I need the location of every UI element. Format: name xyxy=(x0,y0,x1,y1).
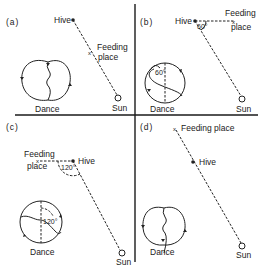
feeding-label-1: Feeding xyxy=(225,8,256,18)
hive-label: Hive xyxy=(78,156,95,166)
dance-angle-label: 60° xyxy=(155,69,166,76)
feeding-place-marker-icon: x xyxy=(36,158,39,164)
feeding-label-1: Feeding xyxy=(24,149,55,159)
panel-label: (a) xyxy=(6,17,19,27)
hive-label: Hive xyxy=(54,15,71,25)
angle-label: 120° xyxy=(61,164,76,171)
sun-icon xyxy=(239,96,245,102)
sun-icon xyxy=(119,250,125,256)
sun-icon xyxy=(239,243,245,249)
dance-label: Dance xyxy=(30,247,55,257)
dance-label: Dance xyxy=(150,247,175,257)
sun-label: Sun xyxy=(112,103,127,113)
sun-label: Sun xyxy=(236,104,251,114)
hive-label: Hive xyxy=(199,157,216,167)
feeding-sun-line xyxy=(176,130,241,243)
panel-label: (b) xyxy=(140,17,153,27)
feeding-place-marker-icon: x xyxy=(173,126,176,132)
panel-label: (d) xyxy=(140,122,153,132)
feeding-label-2: place xyxy=(231,22,252,32)
hive-dot-icon xyxy=(191,160,195,164)
panel-label: (c) xyxy=(6,122,19,132)
feeding-label: Feeding place xyxy=(181,123,235,133)
hive-sun-line xyxy=(195,21,241,96)
feeding-label-1: Feeding xyxy=(97,42,128,52)
panel-b: (b) Hive x Feeding place 60° Sun 60° Dan… xyxy=(140,8,256,114)
sun-label: Sun xyxy=(116,257,131,267)
bee-dance-diagram: (a) Hive x Feeding place Sun Dance (b) H… xyxy=(0,0,264,269)
feeding-place-marker-icon: x xyxy=(88,50,91,56)
sun-icon xyxy=(115,95,121,101)
panel-c: (c) Feeding place x Hive 120° Sun 120° D… xyxy=(6,122,131,267)
feeding-label-2: place xyxy=(98,52,119,62)
dance-label: Dance xyxy=(150,104,175,114)
angle-label: 60° xyxy=(197,23,208,30)
panel-d: (d) x Feeding place Hive Sun Dance xyxy=(140,122,251,260)
dance-angle-label: 120° xyxy=(43,218,58,225)
hive-label: Hive xyxy=(175,16,192,26)
sun-label: Sun xyxy=(236,250,251,260)
dance-label: Dance xyxy=(35,104,60,114)
panel-a: (a) Hive x Feeding place Sun Dance xyxy=(6,15,128,114)
dance-figure xyxy=(20,60,72,100)
